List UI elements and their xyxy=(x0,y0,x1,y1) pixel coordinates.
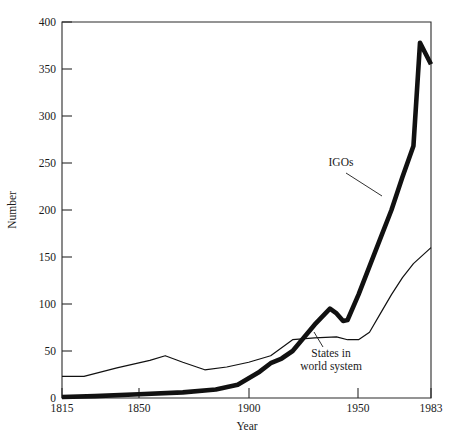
x-tick-label: 1950 xyxy=(347,402,370,414)
y-tick-label: 150 xyxy=(39,251,57,263)
annotation-igos-leader xyxy=(346,173,382,196)
x-tick-label: 1983 xyxy=(420,402,443,414)
annotation-states-label-line1: States in xyxy=(311,347,351,359)
y-axis-title: Number xyxy=(6,191,18,229)
y-tick-label: 250 xyxy=(39,157,57,169)
x-tick-label: 1900 xyxy=(238,402,261,414)
y-tick-label: 350 xyxy=(39,63,57,75)
y-tick-label: 300 xyxy=(39,110,57,122)
x-axis-tick-labels: 1815 1850 1900 1950 1983 xyxy=(51,402,443,414)
x-tick-label: 1815 xyxy=(51,402,74,414)
annotation-states-leader xyxy=(314,332,323,347)
chart-svg: 0 50 100 150 200 250 300 350 400 1815 18… xyxy=(0,0,453,434)
y-tick-label: 50 xyxy=(45,345,57,357)
y-axis-ticks xyxy=(62,22,72,398)
series-line-igos xyxy=(62,43,431,397)
annotation-states-label-line2: world system xyxy=(300,360,362,373)
annotation-igos-label: IGOs xyxy=(329,156,354,168)
chart-figure: 0 50 100 150 200 250 300 350 400 1815 18… xyxy=(0,0,453,434)
y-tick-label: 200 xyxy=(39,204,57,216)
series-line-states xyxy=(62,248,431,377)
y-tick-label: 400 xyxy=(39,16,57,28)
x-tick-label: 1850 xyxy=(128,402,151,414)
x-axis-title: Year xyxy=(236,420,257,432)
plot-frame xyxy=(62,22,431,398)
y-tick-label: 100 xyxy=(39,298,57,310)
y-axis-tick-labels: 0 50 100 150 200 250 300 350 400 xyxy=(39,16,57,404)
